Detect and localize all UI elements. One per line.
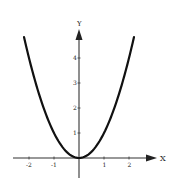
parabola-chart: X Y -2-112 1234 xyxy=(0,0,174,184)
x-tick-label: 2 xyxy=(128,161,132,168)
x-tick-label: 1 xyxy=(103,161,107,168)
chart-canvas: X Y -2-112 1234 xyxy=(0,0,174,184)
y-tick-label: 2 xyxy=(73,104,77,111)
x-tick-label: -2 xyxy=(26,161,32,168)
x-axis-arrow-icon xyxy=(146,155,157,162)
x-axis-label: X xyxy=(160,154,166,163)
x-tick-label: -1 xyxy=(51,161,57,168)
y-tick-label: 1 xyxy=(73,129,77,136)
y-tick-label: 4 xyxy=(73,54,77,61)
y-axis-arrow-icon xyxy=(76,29,83,40)
y-tick-label: 3 xyxy=(73,79,77,86)
y-axis-label: Y xyxy=(76,20,82,28)
